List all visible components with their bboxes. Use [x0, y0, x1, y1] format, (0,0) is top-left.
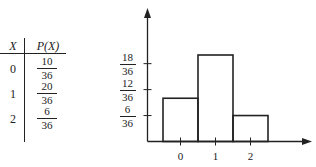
denominator: 36 — [118, 66, 138, 77]
y-tick-label: 636 — [118, 104, 138, 129]
x-axis-arrow-icon — [302, 138, 312, 145]
y-tick-label: 1236 — [118, 78, 138, 103]
y-axis-arrow-icon — [144, 8, 151, 18]
denominator: 36 — [118, 92, 138, 103]
histogram-chart — [0, 0, 316, 167]
histogram-bar — [198, 55, 233, 142]
x-tick-label: 0 — [174, 150, 188, 162]
numerator: 12 — [118, 78, 138, 89]
y-tick-label: 1836 — [118, 52, 138, 77]
x-tick-label: 1 — [209, 150, 223, 162]
numerator: 6 — [118, 104, 138, 115]
numerator: 18 — [118, 52, 138, 63]
denominator: 36 — [118, 118, 138, 129]
x-tick-label: 2 — [244, 150, 258, 162]
histogram-bar — [163, 98, 198, 141]
